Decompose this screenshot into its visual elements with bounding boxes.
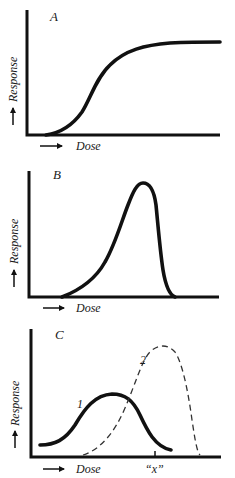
- curve-2-label: 2: [140, 353, 146, 367]
- panel-a-sigmoid-curve: [46, 42, 220, 135]
- curve-1-label: 1: [77, 397, 83, 411]
- y-axis-label: Response: [7, 218, 21, 265]
- x-tick-label: “x”: [145, 462, 164, 476]
- panel-c-y-label: Response: [8, 380, 22, 448]
- x-axis-label: Dose: [75, 301, 101, 315]
- dose-response-figure: A Response Dose B Response Dose C: [0, 0, 235, 478]
- panel-a-axes: [27, 10, 220, 135]
- panel-c-axes: [31, 329, 221, 457]
- panel-b: B Response Dose: [7, 167, 219, 315]
- x-axis-label: Dose: [75, 462, 101, 476]
- panel-c: C “x” 1 2 Response Dose: [8, 327, 221, 476]
- panel-a-y-label: Response: [6, 56, 20, 125]
- panel-c-x-label: Dose: [43, 462, 101, 476]
- panel-b-peak-curve: [62, 183, 175, 297]
- panel-b-x-label: Dose: [43, 301, 101, 315]
- y-axis-label: Response: [6, 56, 20, 103]
- panel-b-y-label: Response: [7, 218, 21, 287]
- panel-c-curve-1: [40, 394, 171, 450]
- panel-a: A Response Dose: [6, 9, 220, 153]
- y-axis-label: Response: [8, 380, 22, 427]
- panel-c-label: C: [55, 327, 64, 342]
- panel-b-label: B: [53, 167, 61, 182]
- panel-a-x-label: Dose: [40, 139, 101, 153]
- panel-b-axes: [29, 171, 219, 297]
- panel-a-label: A: [49, 9, 58, 24]
- x-axis-label: Dose: [75, 139, 101, 153]
